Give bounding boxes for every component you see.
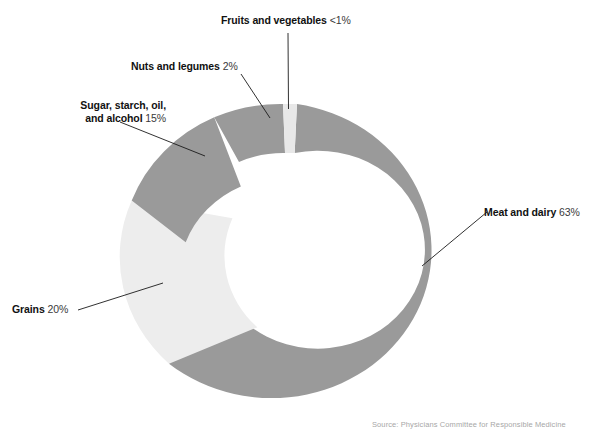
callout-label-sugar-line2: and alcohol <box>85 112 142 124</box>
donut-chart-graphic <box>0 0 605 443</box>
slice-fruits-and-vegetables[interactable] <box>283 104 297 153</box>
callout-label-nuts: Nuts and legumes <box>131 60 220 72</box>
leader-line-meat <box>422 212 487 266</box>
callout-sugar-starch-oil-alcohol: Sugar, starch, oil, and alcohol 15% <box>24 99 166 125</box>
callout-percent-sugar: 15% <box>145 112 166 124</box>
callout-label-fruits: Fruits and vegetables <box>221 14 327 26</box>
callout-label-grains: Grains <box>12 303 45 315</box>
callout-percent-meat: 63% <box>559 206 580 218</box>
callout-label-meat: Meat and dairy <box>484 206 556 218</box>
callout-nuts-and-legumes: Nuts and legumes 2% <box>131 60 238 73</box>
callout-percent-nuts: 2% <box>223 60 238 72</box>
callout-percent-fruits: <1% <box>330 14 351 26</box>
callout-grains: Grains 20% <box>12 303 68 316</box>
callout-fruits-and-vegetables: Fruits and vegetables <1% <box>221 14 351 27</box>
donut-chart-figure: Fruits and vegetables <1% Nuts and legum… <box>0 0 605 443</box>
leader-line-fruits <box>288 33 289 109</box>
donut-slices <box>120 104 432 398</box>
callout-percent-grains: 20% <box>48 303 69 315</box>
source-attribution: Source: Physicians Committee for Respons… <box>372 420 566 429</box>
callout-label-sugar-line1: Sugar, starch, oil, <box>80 99 166 111</box>
callout-meat-and-dairy: Meat and dairy 63% <box>484 206 580 219</box>
